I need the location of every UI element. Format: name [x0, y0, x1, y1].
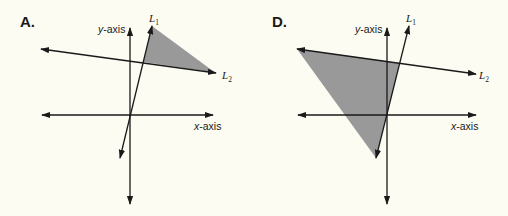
- panel-d-l2-label: L2: [478, 69, 489, 84]
- panel-d-x-axis-label: x-axis: [450, 120, 478, 132]
- panel-d: D. y-axis x-axis L1 L2: [272, 12, 489, 204]
- panel-d-label: D.: [272, 13, 287, 30]
- panel-a-x-axis-label: x-axis: [193, 120, 221, 132]
- panel-d-shaded-region: [297, 49, 400, 158]
- panel-a-l1-label: L1: [148, 12, 159, 27]
- panel-d-l1-label: L1: [405, 12, 416, 27]
- panel-a-shaded-region: [144, 26, 216, 73]
- panel-a-label: A.: [20, 13, 35, 30]
- diagram-canvas: A. y-axis x-axis L1 L2 D. y-axis x-axis …: [0, 0, 508, 216]
- panel-a: A. y-axis x-axis L1 L2: [20, 12, 232, 204]
- panel-a-l2-label: L2: [221, 69, 232, 84]
- panel-d-y-axis-label: y-axis: [354, 23, 382, 35]
- panel-a-line-l1: [120, 26, 152, 158]
- panel-a-y-axis-label: y-axis: [97, 23, 125, 35]
